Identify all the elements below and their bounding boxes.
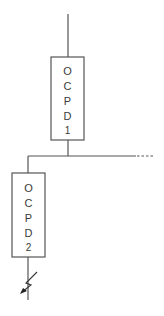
ocpd2-label-char-0: O	[24, 182, 33, 194]
ocpd1-label-char-0: O	[63, 65, 72, 77]
ocpd2-label-char-3: D	[25, 227, 33, 239]
ocpd1-label-char-3: D	[64, 110, 72, 122]
ocpd1-label-char-4: 1	[65, 125, 71, 136]
ocpd1-device: O C P D 1	[51, 57, 84, 140]
ocpd2-device: O C P D 2	[12, 173, 45, 257]
single-line-diagram: O C P D 1 O C P D 2	[0, 0, 164, 316]
ocpd2-label-char-2: P	[25, 212, 32, 224]
ocpd1-label-char-1: C	[64, 80, 72, 92]
ocpd1-label-char-2: P	[64, 95, 71, 107]
ocpd2-label-char-4: 2	[26, 242, 32, 253]
ocpd2-label-char-1: C	[25, 197, 33, 209]
